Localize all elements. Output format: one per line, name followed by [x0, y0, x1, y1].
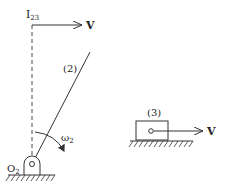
- link-2: (2): [32, 52, 90, 164]
- pivot-pin-icon: [30, 162, 35, 167]
- ground-hatch-left: [6, 175, 55, 181]
- link-2-label: (2): [63, 63, 77, 74]
- velocity-label-top: V: [85, 19, 95, 32]
- block-pin-icon: [149, 129, 154, 134]
- omega-label: ω2: [61, 132, 74, 145]
- block-label: (3): [147, 107, 161, 118]
- link-2-bar: [32, 52, 90, 164]
- mechanism-diagram: I23 V (2) ω2 O2 (3): [0, 0, 227, 194]
- velocity-label-block: V: [206, 125, 216, 138]
- ground-hatch-right: [129, 141, 193, 147]
- instant-center-label: I23: [26, 8, 39, 22]
- pivot-label: O2: [7, 163, 20, 176]
- omega-arc-arrow-icon: [35, 132, 64, 151]
- pivot-o2: O2: [6, 156, 55, 181]
- slider-block-3: (3) V: [129, 107, 216, 147]
- omega-group: ω2: [35, 132, 74, 151]
